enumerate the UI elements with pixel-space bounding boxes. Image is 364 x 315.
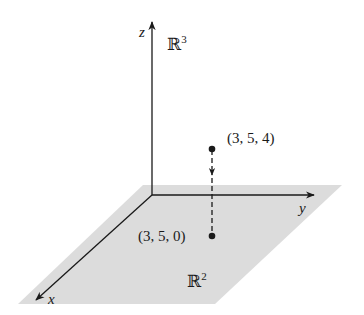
point-3d-dot — [209, 146, 216, 153]
xy-plane — [18, 185, 342, 304]
point-projected-dot — [209, 233, 216, 240]
point-projected-label: (3, 5, 0) — [138, 228, 186, 245]
r3-label: ℝ3 — [167, 33, 187, 54]
y-axis-label: y — [297, 200, 306, 216]
r3-base: ℝ — [167, 35, 182, 54]
projection-diagram: z y x ℝ3 ℝ2 (3, 5, 4) (3, 5, 0) — [0, 0, 364, 315]
point-3d-label: (3, 5, 4) — [227, 130, 275, 147]
r2-base: ℝ — [187, 272, 202, 291]
x-axis-label: x — [47, 291, 55, 307]
z-axis-label: z — [138, 24, 145, 40]
r2-exponent: 2 — [201, 270, 207, 282]
r3-exponent: 3 — [181, 33, 187, 45]
